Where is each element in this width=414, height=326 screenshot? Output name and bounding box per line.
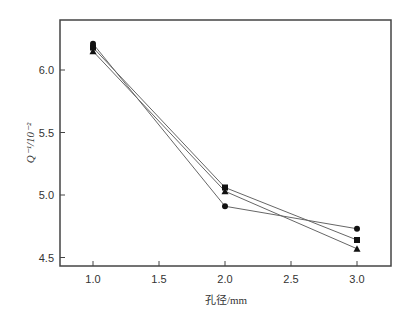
x-tick-label: 1.5 — [151, 273, 166, 285]
x-tick-label: 2.5 — [283, 273, 298, 285]
x-tick-label: 2.0 — [217, 273, 232, 285]
plot-frame — [60, 20, 391, 266]
x-tick-label: 3.0 — [349, 273, 364, 285]
series-line-circle — [93, 44, 357, 229]
y-tick-label: 5.5 — [39, 127, 54, 139]
x-axis-label: 孔径/mm — [205, 294, 248, 306]
marker-circle — [354, 226, 360, 232]
chart: 1.01.52.02.53.04.55.05.56.0 孔径/mm Q⁻¹/10… — [0, 0, 414, 326]
marker-square — [354, 237, 360, 243]
series-line-square — [93, 48, 357, 241]
y-tick-label: 6.0 — [39, 64, 54, 76]
y-tick-label: 5.0 — [39, 189, 54, 201]
marker-circle — [222, 203, 228, 209]
y-tick-label: 4.5 — [39, 252, 54, 264]
series-line-triangle — [93, 51, 357, 249]
y-axis-label: Q⁻¹/10⁻² — [24, 122, 36, 163]
marker-triangle — [354, 245, 361, 252]
x-tick-label: 1.0 — [85, 273, 100, 285]
